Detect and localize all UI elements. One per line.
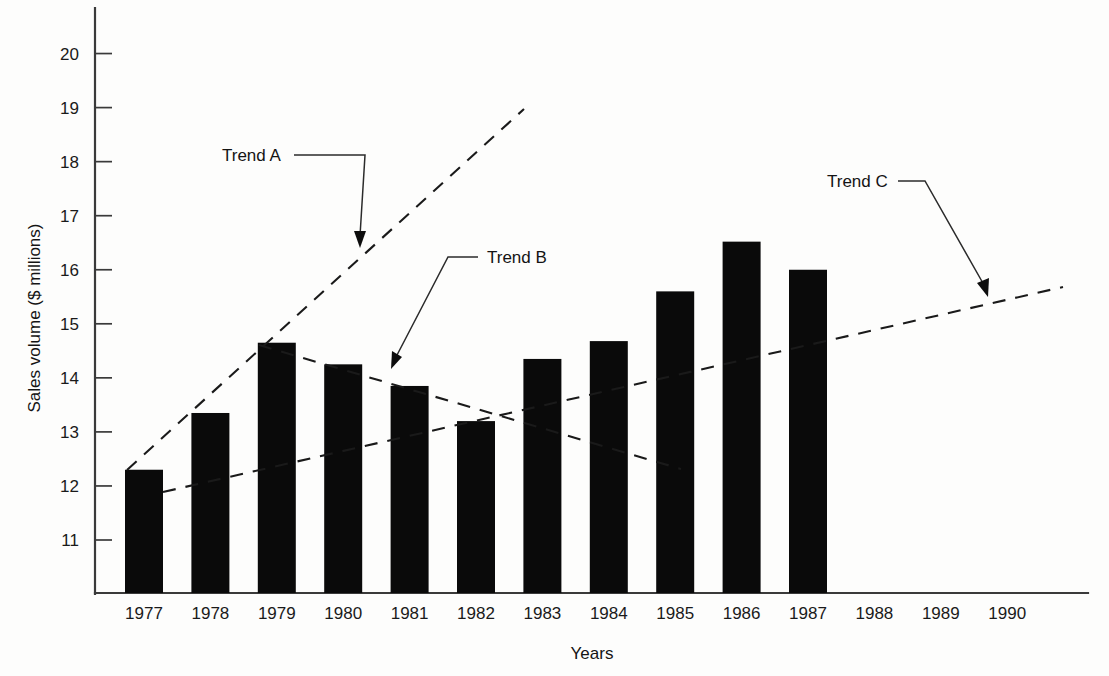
x-tick-label: 1980 bbox=[324, 604, 362, 623]
y-tick-label: 15 bbox=[60, 315, 79, 334]
x-tick-label: 1986 bbox=[723, 604, 761, 623]
bar bbox=[391, 386, 429, 593]
bar bbox=[457, 421, 495, 593]
x-tick-label: 1987 bbox=[789, 604, 827, 623]
y-tick-label: 20 bbox=[60, 45, 79, 64]
trend-c-label: Trend C bbox=[827, 172, 888, 191]
trend-a-label: Trend A bbox=[222, 146, 282, 165]
x-tick-label: 1989 bbox=[922, 604, 960, 623]
x-axis-title: Years bbox=[571, 644, 614, 663]
bar bbox=[125, 470, 163, 593]
bar bbox=[258, 343, 296, 593]
y-axis-title: Sales volume ($ millions) bbox=[25, 224, 44, 413]
x-tick-label: 1979 bbox=[258, 604, 296, 623]
y-tick-label: 11 bbox=[61, 531, 79, 550]
bar bbox=[723, 242, 761, 593]
x-tick-label: 1985 bbox=[656, 604, 694, 623]
trend-b-label: Trend B bbox=[487, 248, 547, 267]
bar bbox=[656, 291, 694, 593]
bar bbox=[789, 270, 827, 593]
x-tick-label: 1988 bbox=[855, 604, 893, 623]
bar-chart-with-trend-lines: 11121314151617181920 1977197819791980198… bbox=[0, 0, 1109, 676]
bar bbox=[590, 341, 628, 593]
y-tick-label: 12 bbox=[60, 477, 79, 496]
y-tick-label: 14 bbox=[60, 369, 79, 388]
x-tick-label: 1984 bbox=[590, 604, 628, 623]
x-tick-label: 1983 bbox=[523, 604, 561, 623]
x-tick-label: 1990 bbox=[988, 604, 1026, 623]
x-tick-label: 1981 bbox=[391, 604, 429, 623]
bar bbox=[191, 413, 229, 593]
chart-page: 11121314151617181920 1977197819791980198… bbox=[0, 0, 1109, 676]
bar bbox=[324, 364, 362, 593]
x-tick-label: 1977 bbox=[125, 604, 163, 623]
y-tick-label: 16 bbox=[60, 261, 79, 280]
y-tick-label: 17 bbox=[60, 207, 79, 226]
y-tick-label: 19 bbox=[60, 99, 79, 118]
bar bbox=[523, 359, 561, 593]
x-tick-label: 1982 bbox=[457, 604, 495, 623]
y-tick-label: 18 bbox=[60, 153, 79, 172]
y-tick-label: 13 bbox=[60, 423, 79, 442]
x-tick-label: 1978 bbox=[191, 604, 229, 623]
